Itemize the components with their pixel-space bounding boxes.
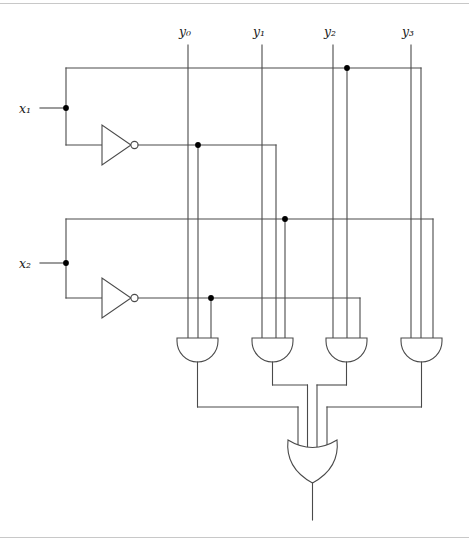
junction-x1	[63, 105, 69, 111]
output-label-y1-text: y₁	[253, 24, 265, 39]
output-label-y2: y₂	[324, 24, 336, 39]
circuit-diagram-canvas: y₀ y₁ y₂ y₃ x₁ x₂	[0, 0, 469, 541]
output-label-y1: y₁	[253, 24, 265, 39]
inverter-x1	[102, 125, 138, 165]
output-label-y2-text: y₂	[324, 24, 336, 39]
inverter-x2	[102, 278, 138, 318]
junction-x1-y2	[344, 65, 350, 71]
output-label-y3-text: y₃	[402, 24, 414, 39]
input-label-x1-text: x₁	[19, 101, 31, 116]
circuit-schematic	[0, 0, 469, 541]
and-gate-2	[252, 338, 293, 385]
output-label-y0: y₀	[179, 24, 191, 39]
input-label-x2: x₂	[19, 256, 31, 271]
output-label-y3: y₃	[402, 24, 414, 39]
wire-not-x2	[138, 295, 360, 338]
input-label-x2-text: x₂	[19, 256, 31, 271]
and-gate-3	[326, 338, 367, 385]
junction-not-x1	[195, 142, 201, 148]
output-label-y0-text: y₀	[179, 24, 191, 39]
and-gate-1	[177, 338, 218, 407]
input-wire-x1	[40, 65, 421, 338]
and-gate-4	[401, 338, 442, 407]
page-frame	[0, 4, 469, 538]
or-gate	[288, 440, 338, 520]
junction-not-x2	[208, 295, 214, 301]
junction-x2-and2	[282, 216, 288, 222]
junction-x2	[63, 260, 69, 266]
input-wire-x2	[40, 216, 433, 338]
wire-not-x1	[138, 142, 276, 338]
input-label-x1: x₁	[19, 101, 31, 116]
